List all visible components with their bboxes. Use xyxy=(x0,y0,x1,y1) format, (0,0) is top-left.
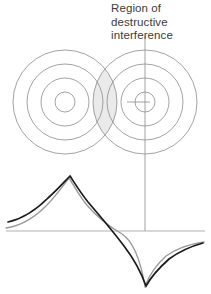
diagram-canvas xyxy=(0,0,211,294)
component-wave-curve xyxy=(6,178,204,286)
wavefront-left-3 xyxy=(27,64,103,140)
interference-diagram: Region of destructive interference xyxy=(0,0,211,294)
wavefront-left-1 xyxy=(55,92,75,112)
destructive-interference-label: Region of destructive interference xyxy=(111,2,209,43)
wavefront-left-2 xyxy=(41,78,89,126)
